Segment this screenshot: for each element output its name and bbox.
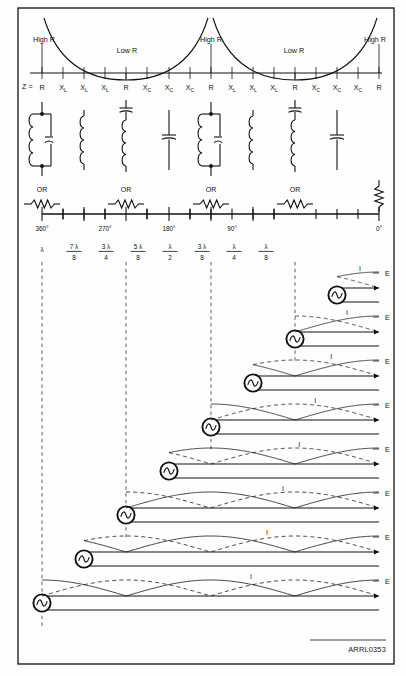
i-label: I — [266, 529, 268, 536]
line-end-arrow — [374, 593, 379, 598]
degree-label: 90° — [227, 225, 237, 232]
e-wave-envelope — [126, 492, 379, 508]
impedance-tick-sub: L — [275, 87, 278, 93]
impedance-tick-label: XL — [80, 83, 88, 93]
capacitor-plate-bottom — [45, 141, 53, 143]
junction-dot — [209, 112, 213, 116]
wave-row: EI — [160, 441, 390, 480]
circuit-inductor — [80, 110, 84, 170]
impedance-tick-label: XC — [165, 83, 174, 93]
circuit-capacitor — [162, 110, 176, 170]
guide-line-group — [42, 262, 295, 626]
i-wave-envelope — [42, 580, 379, 596]
impedance-tick-label: R — [292, 83, 297, 92]
e-wave-envelope — [42, 580, 379, 596]
impedance-tick-sub: C — [191, 87, 195, 93]
impedance-tick-sub: C — [148, 87, 152, 93]
impedance-tick-label: XC — [186, 83, 195, 93]
e-wave-envelope — [295, 316, 379, 332]
label-high-r-left: High R — [33, 35, 55, 44]
figure-id-label: ARRL0353 — [348, 645, 386, 654]
degree-label: 0° — [376, 225, 383, 232]
fraction-denominator: 8 — [200, 254, 204, 261]
wave-row: EI — [75, 529, 390, 568]
fraction-numerator: 3 λ — [102, 243, 111, 250]
impedance-tick-sub: C — [317, 87, 321, 93]
impedance-tick-label: R — [208, 83, 213, 92]
e-wave-envelope — [169, 448, 379, 464]
impedance-tick-label: R — [123, 83, 128, 92]
circuit-inductor — [249, 110, 253, 170]
fraction-numerator: λ — [232, 243, 236, 250]
or-label: OR — [121, 186, 132, 193]
impedance-tick-sub: L — [85, 87, 88, 93]
impedance-tick-group: RXLXLXLRXCXCXCRXLXLXLRXCXCXCR — [39, 67, 381, 93]
e-wave-envelope — [253, 360, 379, 376]
i-label: I — [346, 309, 348, 316]
impedance-tick-label: XL — [59, 83, 67, 93]
or-label: OR — [37, 186, 48, 193]
e-wave-envelope — [84, 536, 379, 552]
line-end-arrow — [374, 417, 379, 422]
wave-row-group: EIEIEIEIEIEIEIEI — [33, 265, 390, 612]
i-label: I — [359, 265, 361, 272]
fraction-numerator: λ — [264, 243, 268, 250]
degree-label: 180° — [162, 225, 176, 232]
e-label: E — [385, 490, 390, 497]
circuit-parallel-lc-tank — [198, 102, 222, 176]
impedance-region-labels: High R Low R High R Low R High R — [33, 35, 386, 55]
impedance-tick-sub: L — [64, 87, 67, 93]
i-label: I — [314, 397, 316, 404]
inductor-coil — [80, 116, 84, 164]
i-wave-envelope — [337, 277, 379, 288]
impedance-tick-label: XL — [249, 83, 257, 93]
e-label: E — [385, 402, 390, 409]
capacitor-plate-bottom — [330, 138, 344, 139]
impedance-tick-sub: L — [254, 87, 257, 93]
junction-dot — [40, 164, 44, 168]
impedance-tick-label: XL — [101, 83, 109, 93]
circuit-series-lc — [289, 100, 302, 172]
junction-dot — [209, 164, 213, 168]
e-wave-envelope — [211, 404, 379, 420]
resistor-zigzag — [284, 200, 307, 208]
i-wave-envelope — [84, 536, 379, 552]
i-wave-envelope — [295, 316, 379, 332]
or-label: OR — [206, 186, 217, 193]
impedance-tick-sub: C — [359, 87, 363, 93]
impedance-tick-sub: C — [338, 87, 342, 93]
e-label: E — [385, 358, 390, 365]
line-end-arrow — [374, 373, 379, 378]
fraction-whole: λ — [40, 246, 44, 253]
wave-row: EI — [328, 265, 390, 304]
impedance-axis: Z = — [22, 73, 382, 91]
label-high-r-mid: High R — [200, 35, 222, 44]
wavelength-fraction-group: λ7 λ83 λ45 λ8λ23 λ8λ4λ8 — [40, 243, 273, 261]
or-label: OR — [290, 186, 301, 193]
i-label: I — [250, 573, 252, 580]
degree-label: 360° — [35, 225, 49, 232]
i-label: I — [298, 441, 300, 448]
e-label: E — [385, 314, 390, 321]
label-low-r-left: Low R — [117, 46, 137, 55]
i-wave-envelope — [126, 492, 379, 508]
capacitor-plate-bottom — [162, 138, 176, 139]
impedance-tick-label: XC — [312, 83, 321, 93]
wave-row: EI — [286, 309, 390, 348]
wave-row: EI — [33, 573, 390, 612]
line-end-arrow — [374, 461, 379, 466]
impedance-tick-label: XL — [270, 83, 278, 93]
inductor-coil — [122, 120, 126, 166]
fraction-numerator: 3 λ — [198, 243, 207, 250]
resistor-zigzag — [375, 186, 383, 207]
resistor-zigzag — [31, 200, 54, 208]
degree-label: 270° — [98, 225, 112, 232]
wave-row: EI — [202, 397, 390, 436]
resistor-zigzag — [200, 200, 223, 208]
circuit-parallel-lc-tank — [29, 102, 53, 176]
junction-dot — [40, 112, 44, 116]
fraction-numerator: λ — [168, 243, 172, 250]
fraction-denominator: 8 — [136, 254, 140, 261]
line-end-arrow — [374, 505, 379, 510]
inductor-coil — [249, 116, 253, 164]
